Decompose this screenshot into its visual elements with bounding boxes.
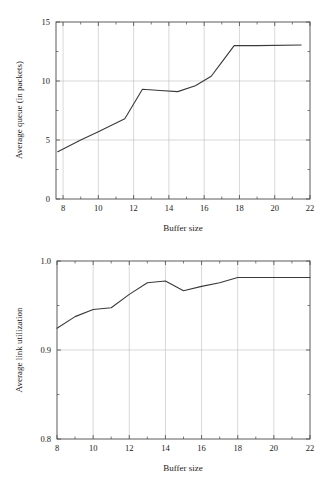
data-line-average-link-utilization xyxy=(57,277,310,328)
x-tick-label: 8 xyxy=(61,203,65,213)
y-tick-labels-average-queue: 051015 xyxy=(42,17,51,204)
x-tick-labels-average-link-utilization: 810121416182022 xyxy=(55,443,314,453)
x-tick-label: 16 xyxy=(197,443,206,453)
y-tick-label: 0.9 xyxy=(40,345,51,355)
x-tick-label: 8 xyxy=(55,443,59,453)
x-tick-label: 14 xyxy=(161,443,170,453)
x-tick-label: 12 xyxy=(129,203,138,213)
x-tick-label: 20 xyxy=(270,203,279,213)
x-tick-label: 16 xyxy=(200,203,209,213)
x-tick-label: 10 xyxy=(89,443,98,453)
y-axis-title-average-link-utilization: Average link utilization xyxy=(14,307,24,392)
x-tick-label: 22 xyxy=(306,203,315,213)
x-tick-labels-average-queue: 810121416182022 xyxy=(61,203,314,213)
average-link-utilization-svg: 810121416182022 0.80.91.0 Buffer size Av… xyxy=(0,245,332,489)
x-axis-title-average-queue: Buffer size xyxy=(163,223,203,233)
x-tick-label: 12 xyxy=(125,443,134,453)
x-tick-label: 18 xyxy=(233,443,242,453)
average-queue-svg: 810121416182022 051015 Buffer size Avera… xyxy=(0,0,332,245)
x-tick-label: 22 xyxy=(306,443,315,453)
axis-ticks-average-queue xyxy=(56,22,310,199)
x-tick-label: 10 xyxy=(94,203,103,213)
y-axis-title-average-queue: Average queue (in packets) xyxy=(14,61,24,159)
y-tick-label: 10 xyxy=(42,76,51,86)
chart-average-queue: 810121416182022 051015 Buffer size Avera… xyxy=(0,0,332,245)
plot-frame-average-queue xyxy=(56,22,310,199)
x-axis-title-average-link-utilization: Buffer size xyxy=(163,463,203,473)
gridlines-average-link-utilization xyxy=(57,261,310,439)
y-tick-label: 0.8 xyxy=(40,434,51,444)
y-tick-labels-average-link-utilization: 0.80.91.0 xyxy=(40,256,51,444)
y-tick-label: 15 xyxy=(42,17,51,27)
y-tick-label: 1.0 xyxy=(40,256,51,266)
gridlines-average-queue xyxy=(56,22,310,199)
y-tick-label: 5 xyxy=(46,135,50,145)
x-tick-label: 18 xyxy=(235,203,244,213)
x-tick-label: 20 xyxy=(270,443,279,453)
data-line-average-queue xyxy=(58,45,301,152)
chart-average-link-utilization: 810121416182022 0.80.91.0 Buffer size Av… xyxy=(0,245,332,489)
x-tick-label: 14 xyxy=(165,203,174,213)
y-tick-label: 0 xyxy=(46,194,50,204)
